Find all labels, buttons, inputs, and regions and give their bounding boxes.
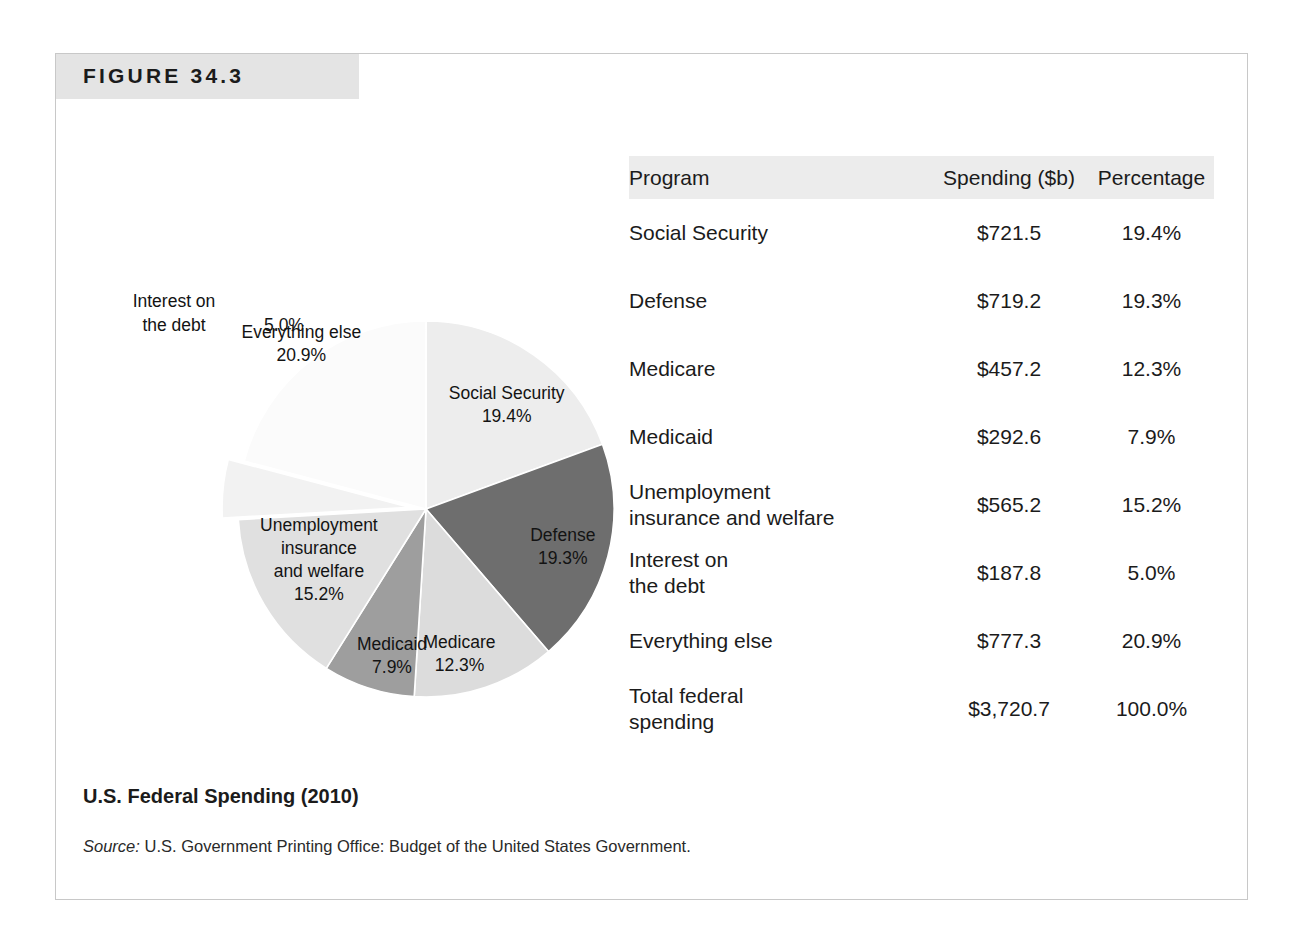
cell-program: Medicare <box>629 335 929 403</box>
cell-program: Interest onthe debt <box>629 539 929 607</box>
cell-percentage: 5.0% <box>1089 539 1214 607</box>
cell-spending: $721.5 <box>929 199 1089 267</box>
pie-slice-label-5-line-1: Unemployment <box>260 515 378 535</box>
cell-percentage: 19.3% <box>1089 267 1214 335</box>
figure-source-line: Source: U.S. Government Printing Office:… <box>83 837 691 856</box>
table-body: Social Security$721.519.4%Defense$719.21… <box>629 199 1214 743</box>
cell-percentage: 100.0% <box>1089 675 1214 743</box>
column-header-percentage: Percentage <box>1089 156 1214 199</box>
cell-program: Medicaid <box>629 403 929 471</box>
pie-slice-label-1-line-1: Social Security <box>449 383 565 403</box>
pie-slice-label-5-line-3: and welfare <box>274 561 364 581</box>
cell-program: Everything else <box>629 607 929 675</box>
pie-slice-label-4-line-2: 7.9% <box>372 657 412 677</box>
cell-spending: $292.6 <box>929 403 1089 471</box>
program-name: Medicaid <box>629 425 713 448</box>
cell-spending: $187.8 <box>929 539 1089 607</box>
cell-spending: $565.2 <box>929 471 1089 539</box>
program-name-line2: insurance and welfare <box>629 506 834 529</box>
cell-program: Unemploymentinsurance and welfare <box>629 471 929 539</box>
pie-slice-label-3-line-2: 12.3% <box>435 655 485 675</box>
cell-program: Social Security <box>629 199 929 267</box>
column-header-spending: Spending ($b) <box>929 156 1089 199</box>
pie-slice-label-1-line-2: 19.4% <box>482 406 532 426</box>
pie-slice-label-7-line-2: 20.9% <box>276 345 326 365</box>
program-name: Defense <box>629 289 707 312</box>
figure-caption-title: U.S. Federal Spending (2010) <box>83 785 359 808</box>
cell-spending: $719.2 <box>929 267 1089 335</box>
pie-chart-svg: Social Security19.4%Defense19.3%Medicare… <box>56 114 656 754</box>
cell-percentage: 20.9% <box>1089 607 1214 675</box>
program-name: Total federal <box>629 684 743 707</box>
program-name: Interest on <box>629 548 728 571</box>
pie-slice-label-7-line-1: Everything else <box>241 322 361 342</box>
program-name: Everything else <box>629 629 773 652</box>
column-header-program: Program <box>629 156 929 199</box>
table-header-row: Program Spending ($b) Percentage <box>629 156 1214 199</box>
pie-slice-label-6-line-1: Interest on <box>133 291 216 311</box>
cell-program: Total federalspending <box>629 675 929 743</box>
pie-slice-label-3-line-1: Medicare <box>424 632 496 652</box>
pie-chart: Social Security19.4%Defense19.3%Medicare… <box>56 114 656 754</box>
table-row: Medicare$457.212.3% <box>629 335 1214 403</box>
table-row: Everything else$777.320.9% <box>629 607 1214 675</box>
cell-percentage: 7.9% <box>1089 403 1214 471</box>
cell-spending: $3,720.7 <box>929 675 1089 743</box>
cell-percentage: 15.2% <box>1089 471 1214 539</box>
table-row: Defense$719.219.3% <box>629 267 1214 335</box>
table-row: Medicaid$292.67.9% <box>629 403 1214 471</box>
program-name: Unemployment <box>629 480 770 503</box>
cell-percentage: 19.4% <box>1089 199 1214 267</box>
table-row: Total federalspending$3,720.7100.0% <box>629 675 1214 743</box>
source-label: Source: <box>83 837 140 855</box>
pie-slice-label-5-line-4: 15.2% <box>294 584 344 604</box>
figure-number-label: FIGURE 34.3 <box>83 64 244 88</box>
pie-slice-label-2-line-1: Defense <box>530 525 595 545</box>
program-name: Medicare <box>629 357 715 380</box>
spending-table: Program Spending ($b) Percentage Social … <box>629 156 1214 743</box>
cell-program: Defense <box>629 267 929 335</box>
program-name: Social Security <box>629 221 768 244</box>
pie-slice-label-5-line-2: insurance <box>281 538 357 558</box>
pie-slice-label-4-line-1: Medicaid <box>357 634 427 654</box>
source-text: U.S. Government Printing Office: Budget … <box>140 837 691 855</box>
cell-spending: $457.2 <box>929 335 1089 403</box>
cell-spending: $777.3 <box>929 607 1089 675</box>
cell-percentage: 12.3% <box>1089 335 1214 403</box>
figure-frame: FIGURE 34.3 Social Security19.4%Defense1… <box>55 53 1248 900</box>
pie-slice-label-6-line-2: the debt <box>142 315 205 335</box>
table-row: Social Security$721.519.4% <box>629 199 1214 267</box>
pie-slice-label-2-line-2: 19.3% <box>538 548 588 568</box>
table-row: Interest onthe debt$187.85.0% <box>629 539 1214 607</box>
program-name-line2: the debt <box>629 574 705 597</box>
spending-data-table: Program Spending ($b) Percentage Social … <box>629 156 1214 743</box>
table-row: Unemploymentinsurance and welfare$565.21… <box>629 471 1214 539</box>
program-name-line2: spending <box>629 710 714 733</box>
